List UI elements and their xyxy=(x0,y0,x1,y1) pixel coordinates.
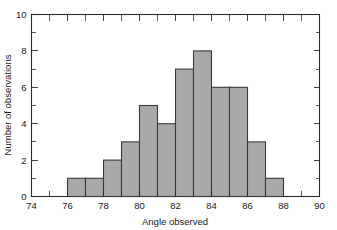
y-tick-label: 10 xyxy=(16,9,27,20)
x-tick-label: 84 xyxy=(206,200,217,211)
x-tick-label: 76 xyxy=(62,200,73,211)
histogram-bar xyxy=(230,87,248,196)
histogram-chart: 747678808284868890 0246810 Angle observe… xyxy=(0,0,337,230)
y-axis-tick-labels: 0246810 xyxy=(16,9,27,202)
x-tick-label: 80 xyxy=(134,200,145,211)
x-tick-label: 88 xyxy=(278,200,289,211)
y-tick-label: 2 xyxy=(21,155,26,166)
x-tick-label: 74 xyxy=(26,200,37,211)
histogram-bar xyxy=(140,106,158,197)
histogram-bar xyxy=(212,87,230,196)
y-tick-label: 4 xyxy=(21,118,26,129)
histogram-bar xyxy=(68,178,86,196)
histogram-bar xyxy=(86,178,104,196)
histogram-bar xyxy=(266,178,284,196)
y-tick-label: 6 xyxy=(21,82,26,93)
histogram-bar xyxy=(176,69,194,196)
histogram-figure: 747678808284868890 0246810 Angle observe… xyxy=(0,0,337,230)
histogram-bar xyxy=(122,142,140,197)
x-tick-label: 78 xyxy=(98,200,109,211)
y-tick-label: 8 xyxy=(21,45,26,56)
bars-group xyxy=(68,51,284,197)
histogram-bar xyxy=(104,160,122,196)
x-tick-label: 86 xyxy=(242,200,253,211)
y-tick-label: 0 xyxy=(21,191,26,202)
histogram-bar xyxy=(158,124,176,197)
x-tick-label: 82 xyxy=(170,200,181,211)
histogram-bar xyxy=(194,51,212,197)
x-axis-label: Angle observed xyxy=(142,216,208,227)
x-tick-label: 90 xyxy=(314,200,325,211)
histogram-bar xyxy=(248,142,266,197)
x-axis-tick-labels: 747678808284868890 xyxy=(26,200,325,211)
y-axis-label: Number of observations xyxy=(2,54,13,155)
